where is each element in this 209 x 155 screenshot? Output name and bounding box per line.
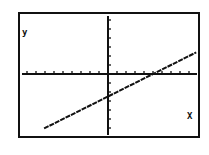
graph-plot: [0, 0, 209, 155]
graph-screen: y X: [0, 0, 209, 155]
x-axis-label: X: [187, 112, 192, 121]
y-axis-label: y: [22, 28, 27, 37]
plotted-line: [44, 52, 196, 128]
